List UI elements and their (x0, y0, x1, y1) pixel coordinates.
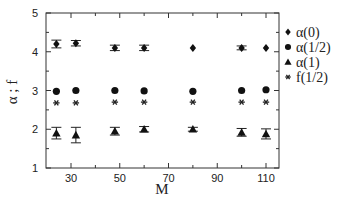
y-axis-title: α ; f (4, 80, 20, 105)
circle-marker (285, 44, 291, 50)
legend-label: f(1/2) (296, 70, 328, 86)
plot-axes: 1234530507090110 (32, 7, 279, 184)
legend-label: α(1/2) (296, 40, 331, 56)
legend-item: α(1) (284, 55, 320, 71)
asterisk-marker (141, 100, 147, 105)
y-tick-label: 2 (32, 123, 38, 135)
circle-marker (141, 87, 148, 94)
triangle-marker (237, 128, 245, 136)
y-tick-label: 3 (32, 85, 38, 97)
x-axis-title: M (155, 181, 168, 197)
asterisk-marker (73, 100, 79, 105)
x-tick-label: 30 (65, 172, 77, 184)
circle-marker (53, 88, 60, 95)
legend: α(0)α(1/2)α(1)f(1/2) (284, 25, 330, 86)
triangle-marker (189, 125, 197, 133)
series-asterisk (53, 100, 269, 106)
legend-item: α(1/2) (285, 40, 331, 56)
scatter-chart: 1234530507090110 M α ; f α(0)α(1/2)α(1)f… (0, 0, 337, 202)
asterisk-marker (112, 100, 118, 105)
asterisk-marker (238, 100, 244, 105)
diamond-marker (285, 29, 290, 36)
circle-marker (262, 86, 269, 93)
diamond-marker (190, 44, 196, 52)
legend-item: f(1/2) (285, 70, 328, 86)
data-points (51, 39, 271, 143)
diamond-marker (53, 40, 59, 48)
series-triangle (51, 125, 271, 143)
series-diamond (51, 39, 269, 52)
asterisk-marker (190, 100, 196, 105)
circle-marker (238, 87, 245, 94)
y-tick-label: 5 (32, 7, 38, 19)
triangle-marker (72, 131, 80, 139)
asterisk-marker (285, 75, 290, 79)
diamond-marker (263, 44, 269, 52)
series-circle (53, 86, 270, 95)
circle-marker (111, 87, 118, 94)
x-tick-label: 50 (114, 172, 126, 184)
x-tick-label: 110 (257, 172, 275, 184)
diamond-marker (238, 44, 244, 52)
asterisk-marker (263, 100, 269, 105)
y-tick-label: 4 (32, 46, 38, 58)
triangle-marker (284, 58, 291, 64)
triangle-marker (52, 129, 60, 137)
circle-marker (189, 88, 196, 95)
legend-item: α(0) (285, 25, 320, 41)
legend-label: α(0) (296, 25, 320, 41)
legend-label: α(1) (296, 55, 320, 71)
triangle-marker (111, 127, 119, 135)
y-tick-label: 1 (32, 162, 38, 174)
asterisk-marker (53, 100, 59, 105)
circle-marker (72, 87, 79, 94)
x-tick-label: 90 (211, 172, 223, 184)
triangle-marker (262, 130, 270, 138)
